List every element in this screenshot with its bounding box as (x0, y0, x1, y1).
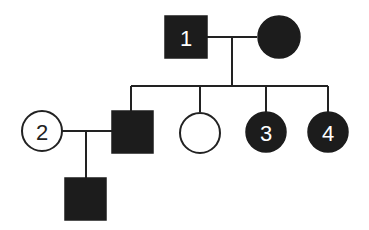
individual-gen2-daughter-c: 4 (308, 112, 348, 152)
individual-gen1-mother (258, 16, 300, 58)
unaffected-female-circle (180, 113, 220, 153)
individual-gen1-father: 1 (165, 16, 207, 58)
affected-male-square (65, 178, 106, 220)
affected-female-circle (258, 16, 300, 58)
individual-label-1: 1 (180, 26, 192, 51)
individual-gen3-son (65, 178, 106, 220)
individual-label-2: 2 (36, 120, 48, 145)
individual-gen2-daughter-a (180, 113, 220, 153)
individual-gen2-son (112, 111, 153, 153)
affected-male-square (112, 111, 153, 153)
pedigree-chart: 1 2 3 4 (0, 0, 369, 230)
individual-label-3: 3 (260, 121, 272, 146)
individual-gen2-spouse: 2 (22, 111, 62, 151)
individual-gen2-daughter-b: 3 (246, 112, 286, 152)
individual-label-4: 4 (322, 121, 334, 146)
